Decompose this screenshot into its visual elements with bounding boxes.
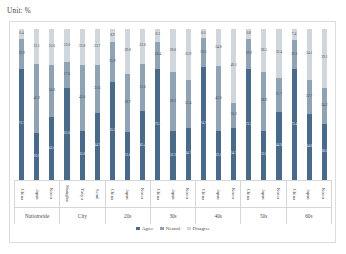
bar-segment-neutral: 39.2 (170, 72, 175, 131)
bar-value-label: 30.9 (34, 155, 40, 159)
bar-value-label: 23.8 (79, 45, 85, 49)
bar-value-label: 34.1 (306, 53, 312, 57)
country-label: China (106, 181, 121, 207)
bar-segment-disagree: 23.7 (95, 29, 100, 65)
unit-label: Unit: % (7, 7, 31, 15)
bar-value-label: 25.9 (109, 60, 115, 64)
bar-groups: 6.419.973.723.145.930.923.634.841.622.01… (14, 29, 332, 180)
bar-segment-agree: 44.7 (95, 113, 100, 180)
bar-value-label: 34.7 (185, 152, 191, 156)
label-group: ChinaJapanKorea60s (287, 181, 332, 224)
bar-segment-agree: 36.9 (322, 124, 327, 180)
bar-value-label: 22.7 (276, 93, 282, 97)
bar-segment-neutral: 24.2 (322, 88, 327, 124)
bar-segment-disagree: 23.0 (140, 29, 145, 64)
bar-value-label: 39.1 (321, 57, 327, 61)
bar-value-label: 73.3 (246, 123, 252, 127)
stacked-bar[interactable]: 32.422.744.9 (276, 29, 281, 180)
country-label: Korea (45, 181, 60, 207)
legend-item[interactable]: Neutral (160, 226, 180, 231)
stacked-bar[interactable]: 23.731.644.7 (95, 29, 100, 180)
bar-segment-agree: 30.9 (34, 133, 39, 180)
stacked-bar[interactable]: 23.634.841.6 (49, 29, 54, 180)
stacked-bar[interactable]: 29.838.731.6 (125, 29, 130, 180)
stacked-bar[interactable]: 23.031.645.4 (140, 29, 145, 180)
bar-segment-agree: 32.6 (80, 131, 85, 180)
stacked-bar[interactable]: 28.639.232.2 (170, 29, 175, 180)
bar-value-label: 32.2 (215, 154, 221, 158)
bar-segment-disagree: 6.0 (201, 29, 206, 38)
bar-segment-neutral: 22.7 (276, 78, 281, 112)
country-label-row: ChinaJapanKorea (241, 181, 285, 208)
country-label: Japan (256, 181, 271, 207)
country-label-row: ShanghaiTokyoSeoul (60, 181, 104, 208)
stacked-bar[interactable]: 6.419.973.7 (19, 29, 24, 180)
legend-item[interactable]: Disagree (187, 226, 209, 231)
bar-value-label: 31.6 (94, 87, 100, 91)
stacked-bar[interactable]: 23.145.930.9 (34, 29, 39, 180)
stacked-bar[interactable]: 28.538.932.6 (261, 29, 266, 180)
stacked-bar[interactable]: 6.019.374.7 (201, 29, 206, 180)
bar-value-label: 19.2 (291, 53, 297, 57)
category-label-table: ChinaJapanKoreaNationwideShanghaiTokyoSe… (14, 180, 332, 224)
bar-value-label: 19.9 (18, 52, 24, 56)
bar-value-label: 24.8 (215, 46, 221, 50)
bar-value-label: 22.7 (306, 95, 312, 99)
country-label: Korea (226, 181, 241, 207)
bar-value-label: 33.9 (185, 53, 191, 57)
bar-segment-agree: 34.7 (186, 128, 191, 180)
bar-segment-disagree: 8.3 (155, 29, 160, 42)
legend-label: Agree (142, 226, 154, 231)
bar-segment-neutral: 31.6 (140, 64, 145, 112)
bar-segment-agree: 32.2 (216, 131, 221, 180)
bar-value-label: 23.1 (34, 45, 40, 49)
bar-segment-disagree: 34.1 (307, 29, 312, 80)
stacked-bar[interactable]: 8.925.965.2 (110, 29, 115, 180)
chart-legend: AgreeNeutralDisagree (0, 226, 346, 231)
bar-value-label: 39.2 (170, 100, 176, 104)
stacked-bar[interactable]: 22.017.061.0 (64, 29, 69, 180)
stacked-bar[interactable]: 49.116.234.7 (231, 29, 236, 180)
bar-segment-agree: 61.0 (64, 88, 69, 180)
bar-segment-neutral: 19.9 (19, 39, 24, 69)
bar-segment-agree: 31.6 (125, 132, 130, 180)
stacked-bar[interactable]: 8.318.473.3 (155, 29, 160, 180)
bar-group: 7.419.273.434.122.744.639.124.236.9 (287, 29, 332, 180)
country-label: Korea (316, 181, 331, 207)
stacked-bar[interactable]: 24.843.032.2 (216, 29, 221, 180)
label-group: ChinaJapanKorea30s (151, 181, 196, 224)
bar-segment-disagree: 24.8 (216, 29, 221, 66)
bar-value-label: 28.5 (261, 49, 267, 53)
stacked-bar[interactable]: 33.931.434.7 (186, 29, 191, 180)
bar-value-label: 19.3 (200, 51, 206, 55)
bar-value-label: 17.0 (64, 73, 70, 77)
bar-segment-agree: 32.6 (261, 131, 266, 180)
country-label: Japan (301, 181, 316, 207)
bar-value-label: 61.0 (64, 132, 70, 136)
stacked-bar[interactable]: 39.124.236.9 (322, 29, 327, 180)
bar-value-label: 7.4 (292, 33, 297, 37)
bar-value-label: 34.7 (230, 152, 236, 156)
legend-item[interactable]: Agree (136, 226, 153, 231)
bar-segment-disagree: 23.8 (80, 29, 85, 65)
bar-value-label: 45.9 (34, 97, 40, 101)
bar-segment-disagree: 23.6 (49, 29, 54, 65)
legend-swatch-icon (136, 227, 139, 230)
bar-segment-disagree: 32.4 (276, 29, 281, 78)
stacked-bar[interactable]: 34.122.744.6 (307, 29, 312, 180)
group-label: 40s (196, 208, 240, 224)
bar-value-label: 29.8 (124, 50, 130, 54)
bar-value-label: 32.4 (276, 52, 282, 56)
bar-segment-neutral: 43.0 (216, 66, 221, 131)
bar-segment-agree: 41.6 (49, 117, 54, 180)
stacked-bar[interactable]: 23.843.632.6 (80, 29, 85, 180)
bar-segment-agree: 44.9 (276, 112, 281, 180)
group-label: 30s (151, 208, 195, 224)
bar-value-label: 24.2 (321, 104, 327, 108)
stacked-bar[interactable]: 6.819.973.3 (246, 29, 251, 180)
country-label: Korea (135, 181, 150, 207)
stacked-bar[interactable]: 7.419.273.4 (292, 29, 297, 180)
bar-value-label: 44.9 (276, 144, 282, 148)
country-label: China (287, 181, 302, 207)
group-label: City (60, 208, 104, 224)
